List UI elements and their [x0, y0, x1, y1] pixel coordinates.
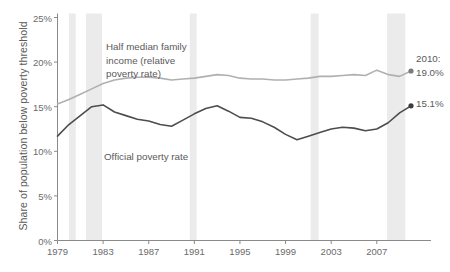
poverty-rate-chart: Share of population below poverty thresh… — [0, 0, 450, 272]
x-tick-label: 1991 — [184, 246, 205, 257]
x-tick-label: 2003 — [321, 246, 342, 257]
plot-area — [0, 0, 450, 272]
series-endpoint-dot — [408, 68, 413, 73]
recession-band — [387, 14, 405, 241]
x-tick-label: 1995 — [229, 246, 250, 257]
recession-band — [86, 14, 102, 241]
x-tick-label: 1983 — [93, 246, 114, 257]
official-poverty-annotation: Official poverty rate — [104, 150, 188, 164]
recession-band — [69, 14, 76, 241]
x-tick-label: 1987 — [138, 246, 159, 257]
series-line — [58, 105, 412, 140]
relative-end-label: 2010: 19.0% — [416, 52, 444, 79]
recession-band — [190, 14, 197, 241]
x-tick-label: 2007 — [366, 246, 387, 257]
x-tick-label: 1999 — [275, 246, 296, 257]
series-endpoint-dot — [408, 103, 413, 108]
relative-poverty-annotation: Half median family income (relative pove… — [106, 40, 187, 81]
x-tick-label: 1979 — [47, 246, 68, 257]
recession-band — [311, 14, 319, 241]
official-end-label: 15.1% — [416, 97, 444, 111]
